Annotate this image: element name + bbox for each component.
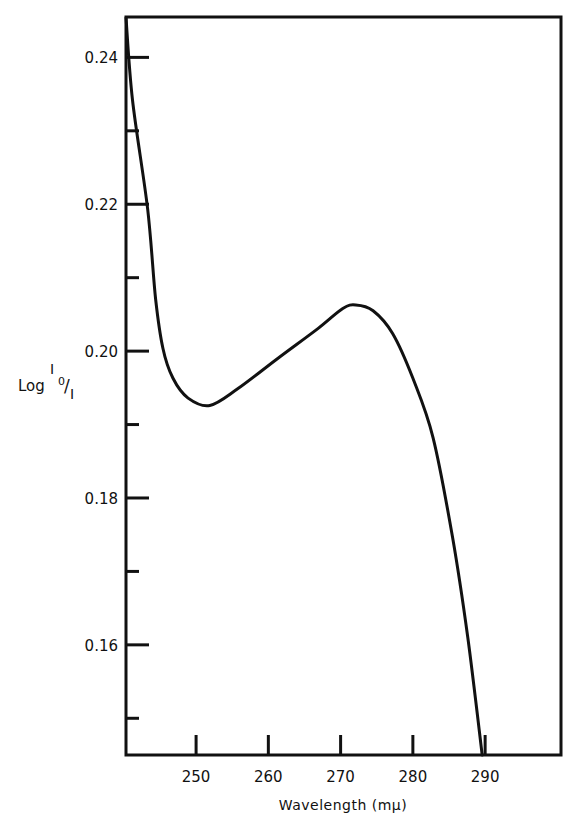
x-tick-label: 290: [471, 768, 500, 786]
x-tick-label: 260: [254, 768, 283, 786]
y-axis-title-denominator: I: [70, 386, 74, 402]
x-tick-label: 270: [326, 768, 355, 786]
y-tick-label: 0.16: [85, 637, 118, 655]
y-tick-label: 0.22: [85, 196, 118, 214]
chart: 250260270280290 0.240.220.200.180.16 Wav…: [0, 0, 577, 827]
plot-frame: [126, 17, 561, 755]
x-axis-title: Wavelength (mμ): [279, 797, 407, 813]
y-axis-title-numerator: I: [50, 361, 54, 377]
x-tick-label: 250: [182, 768, 211, 786]
y-axis-title: Log I 0 / I: [18, 361, 74, 402]
series-line-absorption: [126, 18, 482, 755]
x-tick-labels: 250260270280290: [182, 768, 500, 786]
y-tick-label: 0.18: [85, 490, 118, 508]
y-tick-labels: 0.240.220.200.180.16: [85, 49, 118, 654]
y-axis-title-prefix: Log: [18, 377, 45, 395]
x-tick-label: 280: [399, 768, 428, 786]
y-tick-label: 0.20: [85, 343, 118, 361]
axis-ticks: [126, 57, 485, 755]
y-tick-label: 0.24: [85, 49, 118, 67]
